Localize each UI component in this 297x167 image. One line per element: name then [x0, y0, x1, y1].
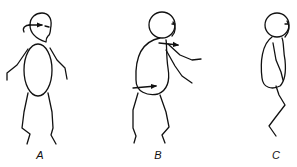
right-leg [48, 93, 56, 144]
figure-label-a: A [36, 149, 43, 161]
head [30, 13, 51, 42]
leg [269, 86, 285, 136]
torso [24, 44, 52, 96]
head [149, 12, 175, 38]
illustration [0, 0, 297, 167]
figure-b [133, 12, 201, 143]
hip-arrow-icon [133, 86, 156, 88]
left-leg [22, 93, 30, 144]
left-leg [133, 93, 138, 143]
ear-curl [23, 25, 30, 32]
figure-c [261, 13, 289, 136]
figure-label-c: C [272, 149, 280, 161]
front-arm-upper [168, 44, 201, 60]
right-arm [50, 48, 67, 79]
head [265, 13, 289, 37]
eye [45, 26, 49, 27]
figure-a [7, 13, 67, 144]
right-leg [160, 95, 169, 143]
figure-label-b: B [154, 149, 161, 161]
arm [273, 43, 283, 80]
